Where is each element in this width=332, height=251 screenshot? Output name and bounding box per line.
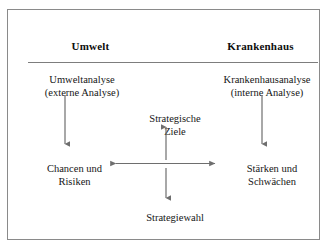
node-chancen-risiken: Chancen und Risiken (22, 163, 127, 188)
node-strategiewahl-line1: Strategiewahl (146, 212, 204, 223)
node-strategische-ziele-line2: Ziele (128, 126, 222, 139)
node-strategische-ziele-line1: Strategische (149, 113, 200, 124)
node-umweltanalyse-line1: Umweltanalyse (49, 74, 114, 85)
node-krankenhausanalyse-line1: Krankenhausanalyse (224, 74, 311, 85)
node-umweltanalyse: Umweltanalyse (externe Analyse) (22, 74, 142, 99)
node-chancen-risiken-line1: Chancen und (47, 163, 102, 174)
node-krankenhausanalyse-line2: (interne Analyse) (204, 87, 330, 100)
node-umweltanalyse-line2: (externe Analyse) (22, 87, 142, 100)
node-chancen-risiken-line2: Risiken (22, 176, 127, 189)
node-strategische-ziele: Strategische Ziele (128, 113, 222, 138)
node-staerken-schwaechen-line2: Schwächen (217, 176, 327, 189)
node-staerken-schwaechen: Stärken und Schwächen (217, 163, 327, 188)
header-divider (28, 62, 318, 63)
node-krankenhausanalyse: Krankenhausanalyse (interne Analyse) (204, 74, 330, 99)
column-header-krankenhaus: Krankenhaus (198, 40, 323, 52)
node-strategiewahl: Strategiewahl (124, 212, 226, 225)
node-staerken-schwaechen-line1: Stärken und (247, 163, 297, 174)
column-header-umwelt: Umwelt (28, 40, 153, 52)
figure-frame: Umwelt Krankenhaus Umweltanalyse (extern… (7, 9, 320, 240)
strategy-diagram-figure: Umwelt Krankenhaus Umweltanalyse (extern… (0, 0, 332, 251)
